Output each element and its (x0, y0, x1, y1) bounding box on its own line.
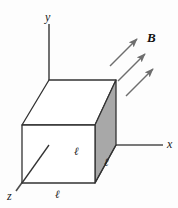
cube (22, 80, 116, 183)
edge-length-label-bottom-depth: ℓ (74, 146, 79, 157)
field-arrow-2 (118, 54, 145, 81)
y-axis-label: y (45, 11, 50, 23)
field-arrow-1 (110, 39, 137, 66)
magnetic-field-label: B (147, 31, 156, 44)
field-arrow-3 (126, 69, 153, 96)
z-axis-label: z (7, 190, 12, 202)
edge-length-label-right-depth: ℓ (104, 157, 109, 168)
physics-diagram-figure: y x z ℓ ℓ ℓ B (0, 0, 178, 208)
cube-front-face (22, 125, 95, 183)
edge-length-label-bottom-front: ℓ (55, 189, 60, 200)
x-axis-label: x (167, 138, 172, 150)
